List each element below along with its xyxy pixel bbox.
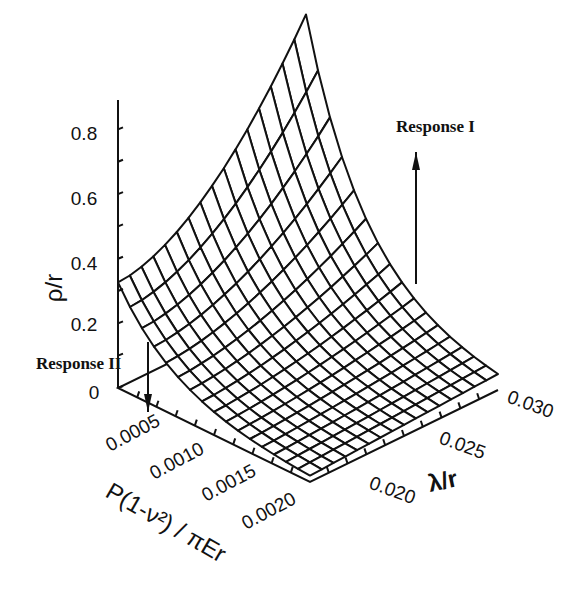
y-tick-mark — [383, 439, 385, 445]
response-2-label: Response II — [36, 354, 122, 373]
y-axis-title: λ/r — [425, 464, 459, 497]
x-tick-mark — [214, 429, 216, 435]
y-tick-mark — [364, 448, 366, 454]
y-tick-1: 0.025 — [437, 427, 489, 463]
x-tick-mark — [233, 438, 235, 444]
z-axis-title: ρ/r — [40, 274, 67, 302]
z-tick-3: 0.6 — [71, 188, 97, 209]
y-tick-mark — [477, 393, 479, 399]
y-tick-mark — [421, 421, 423, 427]
z-tick-1: 0.2 — [71, 314, 97, 335]
x-tick-mark — [176, 410, 178, 416]
y-tick-2: 0.030 — [505, 386, 557, 422]
x-tick-mark — [291, 467, 293, 473]
y-tick-0: 0.020 — [367, 472, 419, 508]
response-1-arrow — [412, 152, 420, 284]
surface-mesh — [118, 14, 498, 475]
x-tick-1: 0.0010 — [146, 438, 207, 484]
x-tick-mark — [252, 448, 254, 454]
x-tick-0: 0.0005 — [102, 410, 163, 456]
response-1-label: Response I — [396, 117, 475, 136]
surface-chart: 0 0.2 0.4 0.6 0.8 ρ/r 0.0005 0.0010 0.00… — [0, 0, 578, 589]
y-tick-mark — [440, 412, 442, 418]
x-tick-3: 0.0020 — [238, 488, 299, 534]
y-tick-mark — [327, 467, 329, 473]
z-axis — [118, 100, 123, 388]
x-tick-mark — [195, 420, 197, 426]
x-tick-mark — [272, 457, 274, 463]
x-tick-2: 0.0015 — [198, 460, 259, 506]
y-tick-mark — [402, 430, 404, 436]
x-tick-mark — [156, 401, 158, 407]
z-tick-2: 0.4 — [71, 253, 98, 274]
z-tick-4: 0.8 — [71, 123, 97, 144]
x-tick-mark — [137, 391, 139, 397]
y-tick-mark — [346, 458, 348, 464]
z-tick-0: 0 — [89, 382, 100, 403]
y-tick-mark — [458, 402, 460, 408]
